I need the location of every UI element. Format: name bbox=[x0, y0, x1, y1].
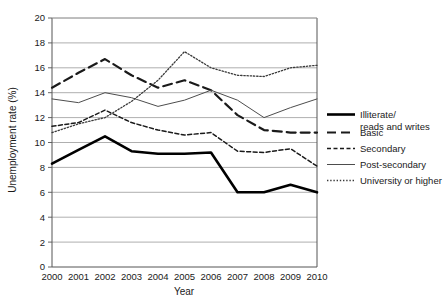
legend-label[interactable]: Secondary bbox=[360, 143, 406, 154]
x-tick-label: 2001 bbox=[68, 271, 89, 282]
unemployment-rate-line-chart: 02468101214161820 2000200120022003200420… bbox=[0, 0, 444, 303]
y-tick-label: 20 bbox=[34, 12, 45, 23]
y-tick-label: 8 bbox=[40, 162, 45, 173]
x-tick-label: 2006 bbox=[200, 271, 221, 282]
y-tick-label: 12 bbox=[34, 112, 45, 123]
x-tick-label: 2005 bbox=[174, 271, 195, 282]
y-tick-label: 14 bbox=[34, 87, 45, 98]
y-tick-label: 16 bbox=[34, 62, 45, 73]
x-tick-label: 2009 bbox=[280, 271, 301, 282]
y-tick-label: 10 bbox=[34, 137, 45, 148]
y-tick-label: 18 bbox=[34, 37, 45, 48]
y-axis-title: Unemployment rate (%) bbox=[7, 87, 18, 193]
legend-label[interactable]: Post-secondary bbox=[360, 159, 426, 170]
x-tick-label: 2003 bbox=[121, 271, 142, 282]
y-tick-label: 6 bbox=[40, 187, 45, 198]
x-tick-label: 2000 bbox=[41, 271, 62, 282]
legend-label[interactable]: University or higher bbox=[360, 175, 442, 186]
legend-label[interactable]: Basic bbox=[360, 127, 383, 138]
chart-canvas: 02468101214161820 2000200120022003200420… bbox=[0, 0, 444, 303]
x-tick-labels: 2000200120022003200420052006200720082009… bbox=[41, 271, 327, 282]
x-tick-label: 2002 bbox=[94, 271, 115, 282]
x-tick-label: 2007 bbox=[227, 271, 248, 282]
x-tick-label: 2010 bbox=[306, 271, 327, 282]
legend-label[interactable]: Illiterate/ bbox=[360, 109, 396, 120]
y-tick-label: 4 bbox=[40, 212, 45, 223]
x-axis-title: Year bbox=[174, 286, 195, 297]
y-tick-label: 2 bbox=[40, 237, 45, 248]
x-tick-label: 2008 bbox=[253, 271, 274, 282]
x-tick-label: 2004 bbox=[147, 271, 168, 282]
